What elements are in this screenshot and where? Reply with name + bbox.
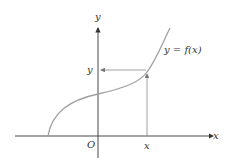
y-axis-label: y bbox=[95, 12, 101, 22]
y-value-label: y bbox=[87, 65, 93, 75]
function-curve bbox=[48, 28, 170, 136]
x-axis-label: x bbox=[213, 131, 219, 141]
curve-label: y = f(x) bbox=[164, 45, 202, 55]
function-diagram bbox=[0, 0, 230, 167]
origin-label: O bbox=[87, 140, 95, 150]
x-value-label: x bbox=[144, 141, 150, 151]
